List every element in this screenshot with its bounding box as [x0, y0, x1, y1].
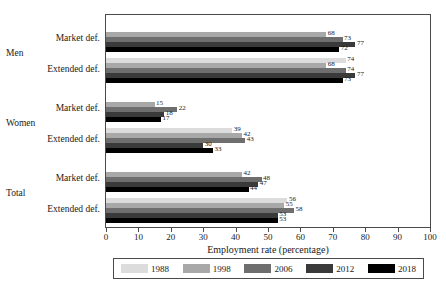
- legend-label: 1988: [151, 264, 169, 274]
- legend-item[interactable]: 1988: [121, 264, 169, 274]
- bar-value-label: 73: [344, 76, 351, 83]
- legend-item[interactable]: 1998: [183, 264, 231, 274]
- bar-value-label: 68: [328, 30, 335, 37]
- x-axis-tick-label: 0: [104, 232, 109, 242]
- legend-swatch: [244, 264, 271, 273]
- bar-value-label: 17: [163, 115, 170, 122]
- bar-value-label: 39: [234, 126, 241, 133]
- legend-label: 2006: [274, 264, 292, 274]
- category-label: Extended def.: [47, 64, 100, 74]
- bar-value-label: 55: [286, 201, 293, 208]
- x-axis-tick-label: 60: [296, 232, 305, 242]
- x-axis-tick-label: 100: [423, 232, 437, 242]
- bar: [106, 78, 343, 83]
- x-axis-tick-label: 70: [328, 232, 337, 242]
- bar: [106, 47, 339, 52]
- bar-value-label: 74: [347, 66, 354, 73]
- chart-legend: 19881998200620122018: [113, 258, 424, 279]
- legend-swatch: [306, 264, 333, 273]
- x-axis-tick-label: 50: [264, 232, 273, 242]
- bar-value-label: 33: [214, 146, 221, 153]
- group-label: Women: [6, 118, 35, 128]
- group-label: Men: [6, 48, 23, 58]
- bars-container: 6873777274687477731522181739424330334248…: [106, 15, 430, 227]
- x-axis: 0102030405060708090100: [105, 228, 431, 244]
- bar-value-label: 43: [247, 136, 254, 143]
- x-axis-tick-label: 90: [393, 232, 402, 242]
- x-axis-tick-label: 80: [361, 232, 370, 242]
- legend-item[interactable]: 2012: [306, 264, 354, 274]
- employment-rate-bar-chart: Market def.Extended def.MenMarket def.Ex…: [0, 0, 446, 293]
- x-axis-tick-label: 10: [134, 232, 143, 242]
- bar-value-label: 72: [341, 45, 348, 52]
- category-label: Market def.: [56, 33, 100, 43]
- bar-value-label: 44: [250, 185, 257, 192]
- group-label: Total: [6, 188, 25, 198]
- bar-value-label: 42: [244, 170, 251, 177]
- bar: [106, 218, 278, 223]
- bar-value-label: 30: [205, 141, 212, 148]
- legend-label: 1998: [213, 264, 231, 274]
- bar-value-label: 74: [347, 56, 354, 63]
- legend-swatch: [183, 264, 210, 273]
- bar-value-label: 22: [179, 105, 186, 112]
- legend-swatch: [368, 264, 395, 273]
- x-axis-title: Employment rate (percentage): [105, 244, 431, 255]
- bar-value-label: 73: [344, 35, 351, 42]
- legend-item[interactable]: 2006: [244, 264, 292, 274]
- legend-label: 2012: [336, 264, 354, 274]
- legend-label: 2018: [398, 264, 416, 274]
- category-label: Extended def.: [47, 204, 100, 214]
- bar: [106, 148, 213, 153]
- category-label: Extended def.: [47, 134, 100, 144]
- legend-item[interactable]: 2018: [368, 264, 416, 274]
- bar-value-label: 77: [357, 71, 364, 78]
- bar: [106, 187, 249, 192]
- bar-value-label: 68: [328, 61, 335, 68]
- category-axis-labels: Market def.Extended def.MenMarket def.Ex…: [0, 14, 103, 228]
- bar-value-label: 53: [279, 216, 286, 223]
- bar-value-label: 77: [357, 40, 364, 47]
- legend-swatch: [121, 264, 148, 273]
- x-axis-tick-label: 40: [231, 232, 240, 242]
- category-label: Market def.: [56, 173, 100, 183]
- bar: [106, 117, 161, 122]
- category-label: Market def.: [56, 103, 100, 113]
- x-axis-tick-label: 30: [199, 232, 208, 242]
- bar-value-label: 15: [156, 100, 163, 107]
- x-axis-tick-label: 20: [166, 232, 175, 242]
- bar-value-label: 47: [260, 180, 267, 187]
- bar-value-label: 58: [295, 206, 302, 213]
